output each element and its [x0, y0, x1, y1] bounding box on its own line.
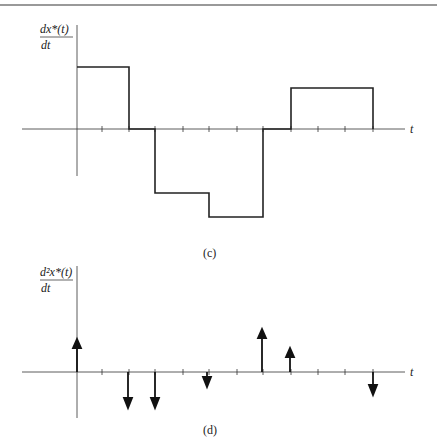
plot-d: d²x*(t) dt t (d) — [22, 265, 414, 437]
ylabel-num: dx*(t) — [40, 22, 69, 36]
figure: dx*(t) dt t (c) d²x*(t) dt t (d — [0, 0, 437, 446]
caption-d: (d) — [203, 423, 217, 437]
ylabel-den: dt — [41, 38, 51, 52]
ylabel-den: dt — [41, 281, 51, 295]
t-label: t — [410, 122, 414, 136]
plot-c: dx*(t) dt t (c) — [22, 22, 414, 260]
ylabel-num: d²x*(t) — [40, 265, 72, 279]
step-waveform — [77, 67, 373, 217]
impulses — [73, 329, 377, 408]
t-label: t — [410, 365, 414, 379]
caption-c: (c) — [203, 246, 216, 260]
